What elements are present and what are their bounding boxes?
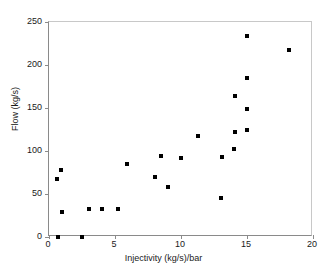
data-point: [245, 34, 249, 38]
y-axis-tick: [45, 194, 49, 195]
y-axis-tick-label: 150: [27, 103, 42, 112]
data-point: [179, 156, 183, 160]
x-axis-title: Injectivity (kg/s)/bar: [0, 253, 327, 263]
y-axis-tick-label: 200: [27, 60, 42, 69]
data-point: [125, 162, 129, 166]
y-axis-tick-labels: 050100150200250: [0, 21, 42, 236]
data-point: [100, 207, 104, 211]
scatter-chart-figure: Flow (kg/s) 050100150200250 05101520 Inj…: [0, 0, 327, 270]
data-point: [233, 130, 237, 134]
x-axis-tick-label: 15: [241, 240, 251, 249]
data-point: [232, 147, 236, 151]
data-point: [60, 210, 64, 214]
y-axis-tick-label: 0: [37, 232, 42, 241]
x-axis-tick-label: 20: [307, 240, 317, 249]
data-point: [287, 48, 291, 52]
data-point: [55, 177, 59, 181]
plot-area: [48, 21, 312, 236]
data-point: [245, 107, 249, 111]
data-point: [196, 134, 200, 138]
data-point: [80, 235, 84, 239]
data-point: [220, 155, 224, 159]
data-point: [153, 175, 157, 179]
data-point: [116, 207, 120, 211]
data-point: [166, 185, 170, 189]
x-axis-tick-label: 5: [111, 240, 116, 249]
y-axis-tick-label: 250: [27, 17, 42, 26]
data-point: [87, 207, 91, 211]
y-axis-tick-label: 100: [27, 146, 42, 155]
data-point: [56, 235, 60, 239]
data-point: [159, 154, 163, 158]
data-point: [245, 128, 249, 132]
y-axis-tick: [45, 108, 49, 109]
data-point: [59, 168, 63, 172]
data-point: [245, 76, 249, 80]
data-point: [219, 196, 223, 200]
y-axis-tick: [45, 22, 49, 23]
data-point: [233, 94, 237, 98]
x-axis-tick-label: 0: [45, 240, 50, 249]
y-axis-tick: [45, 151, 49, 152]
x-axis-tick-label: 10: [175, 240, 185, 249]
y-axis-tick-label: 50: [32, 189, 42, 198]
x-axis-tick-labels: 05101520: [48, 240, 312, 252]
y-axis-tick: [45, 65, 49, 66]
